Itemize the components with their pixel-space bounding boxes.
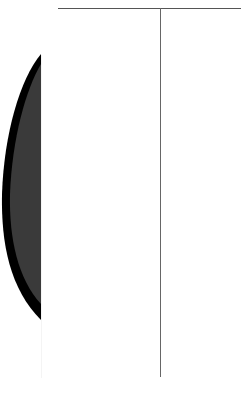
document-page	[0, 0, 241, 407]
left-column-edge	[41, 55, 42, 378]
binding-shadow-shape	[0, 54, 41, 322]
top-horizontal-rule	[58, 8, 241, 9]
footer-text	[150, 398, 240, 406]
column-divider	[160, 8, 161, 377]
